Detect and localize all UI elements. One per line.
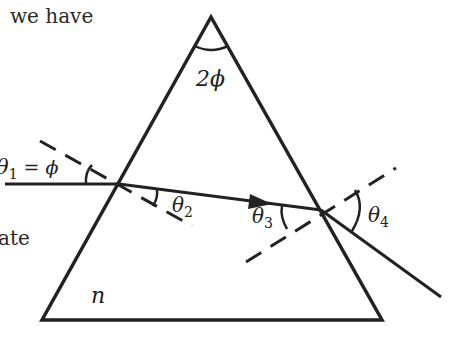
theta2-angle-arc xyxy=(153,190,157,206)
prism-outline xyxy=(42,17,382,320)
refractive-index-label: n xyxy=(91,283,105,308)
apex-angle-label: 2ϕ xyxy=(195,66,225,91)
theta1-angle-arc xyxy=(86,165,92,184)
theta3-angle-arc xyxy=(282,206,287,229)
theta4-label: θ4 xyxy=(368,203,389,230)
apex-angle-arc xyxy=(195,46,228,50)
prism-diagram: 2ϕ θ1 = ϕ θ2 θ3 θ4 n xyxy=(0,0,453,356)
theta3-label: θ3 xyxy=(252,204,273,231)
refracted-ray xyxy=(119,184,321,210)
theta1-label: θ1 = ϕ xyxy=(0,155,59,182)
theta2-label: θ2 xyxy=(172,193,193,220)
